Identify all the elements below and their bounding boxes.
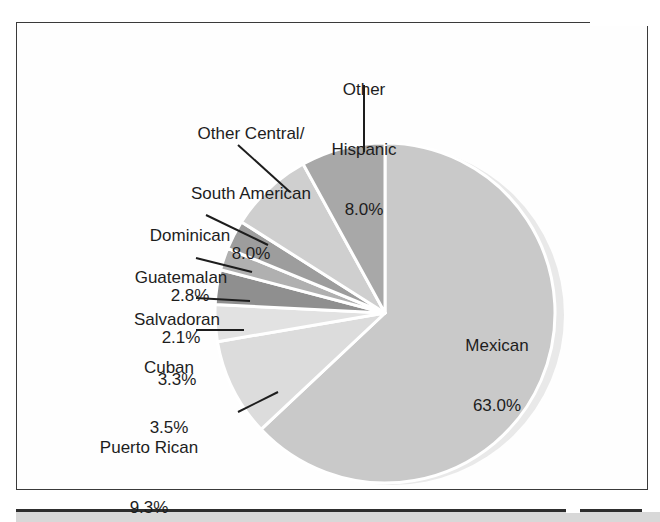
slice-label-other-central-south-american-line1: Other Central/ (160, 124, 342, 144)
slice-label-puerto-rican-percent: 9.3% (66, 498, 232, 518)
slice-label-mexican: Mexican 63.0% (442, 296, 552, 456)
slice-label-puerto-rican-name: Puerto Rican (66, 438, 232, 458)
pie-chart: Other Hispanic 8.0% Other Central/ South… (0, 0, 660, 522)
slice-label-cuban-name: Cuban (110, 358, 228, 378)
slice-label-mexican-percent: 63.0% (442, 396, 552, 416)
slice-label-puerto-rican: Puerto Rican 9.3% (66, 398, 232, 522)
slice-label-mexican-name: Mexican (442, 336, 552, 356)
